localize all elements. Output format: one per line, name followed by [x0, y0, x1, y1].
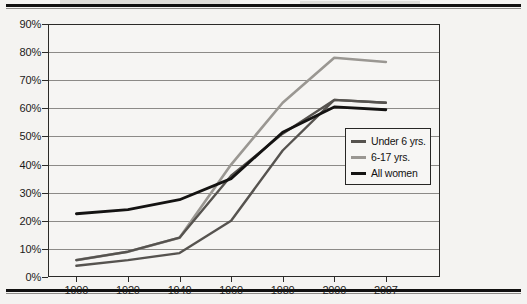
- series-line-all-women: [76, 107, 385, 214]
- legend-item-all-women: All women: [351, 165, 430, 181]
- legend-label-all-women: All women: [371, 168, 418, 179]
- page-rule-top: [6, 4, 521, 7]
- legend-item-under-6: Under 6 yrs.: [351, 133, 430, 149]
- series-line-6-17: [76, 58, 385, 260]
- legend: Under 6 yrs. 6-17 yrs. All women: [345, 128, 431, 185]
- legend-swatch-all-women: [351, 172, 366, 175]
- line-chart: 0%10%20%30%40%50%60%70%80%90% 1900192019…: [0, 12, 527, 290]
- legend-label-under-6: Under 6 yrs.: [371, 136, 426, 147]
- scanned-page: 0%10%20%30%40%50%60%70%80%90% 1900192019…: [0, 0, 527, 304]
- legend-swatch-under-6: [351, 140, 366, 143]
- series-lines: [0, 12, 527, 290]
- legend-swatch-6-17: [351, 156, 366, 159]
- legend-item-6-17: 6-17 yrs.: [351, 149, 430, 165]
- page-rule-top-thin: [6, 8, 521, 9]
- series-line-under-6-lower: [76, 100, 385, 266]
- legend-label-6-17: 6-17 yrs.: [371, 152, 410, 163]
